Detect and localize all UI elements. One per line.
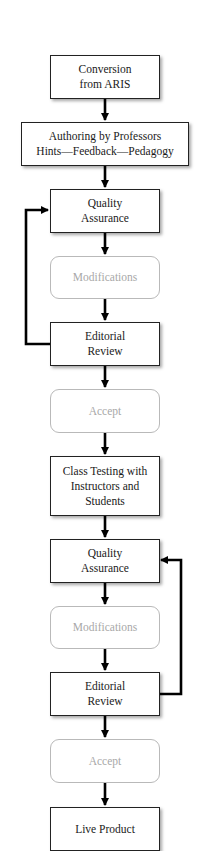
- node-authoring-by-professors: Authoring by Professors Hints—Feedback—P…: [21, 122, 189, 166]
- node-label-line: Authoring by Professors: [49, 129, 161, 144]
- node-label-line: Assurance: [81, 561, 129, 576]
- node-modifications-1: Modifications: [50, 256, 160, 299]
- node-label-line: Editorial: [85, 679, 125, 694]
- loop-arrow-review1-to-qa1: [26, 210, 50, 344]
- node-label-line: Review: [87, 344, 122, 359]
- node-label-line: Live Product: [75, 822, 135, 837]
- node-label-line: Conversion: [78, 62, 131, 77]
- node-class-testing: Class Testing with Instructors and Stude…: [50, 456, 160, 516]
- node-label-line: Hints—Feedback—Pedagogy: [36, 144, 173, 159]
- node-label-line: Quality: [88, 546, 123, 561]
- node-editorial-review-1: Editorial Review: [50, 322, 160, 366]
- node-label-line: Modifications: [73, 270, 138, 285]
- node-label-line: Accept: [89, 404, 122, 419]
- node-label-line: Quality: [88, 196, 123, 211]
- node-label-line: Instructors and: [71, 479, 140, 494]
- node-label-line: Assurance: [81, 211, 129, 226]
- node-label-line: from ARIS: [80, 77, 131, 92]
- node-conversion-from-aris: Conversion from ARIS: [50, 55, 160, 99]
- node-label-line: Modifications: [73, 620, 138, 635]
- node-label-line: Accept: [89, 754, 122, 769]
- node-modifications-2: Modifications: [50, 606, 160, 649]
- node-quality-assurance-1: Quality Assurance: [50, 189, 160, 233]
- node-editorial-review-2: Editorial Review: [50, 672, 160, 716]
- node-live-product: Live Product: [50, 807, 160, 851]
- node-label-line: Editorial: [85, 329, 125, 344]
- node-label-line: Students: [85, 494, 125, 509]
- node-accept-2: Accept: [50, 739, 160, 783]
- loop-arrow-review2-to-qa2: [159, 560, 181, 694]
- node-label-line: Review: [87, 694, 122, 709]
- node-accept-1: Accept: [50, 389, 160, 433]
- node-quality-assurance-2: Quality Assurance: [50, 539, 160, 583]
- node-label-line: Class Testing with: [63, 464, 148, 479]
